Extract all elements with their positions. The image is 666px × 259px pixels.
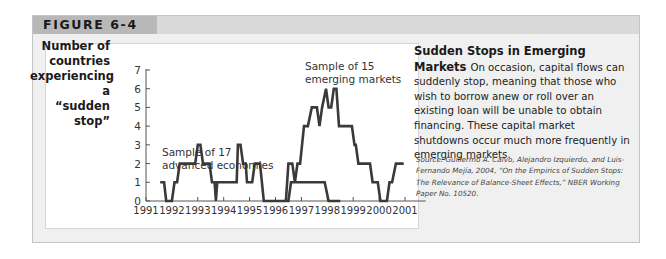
x-tick-label: 1998 [315,205,340,216]
source-note: Source: Guillermo A. Calvo, Alejandro Iz… [416,154,632,199]
annotation-advanced-economies: advanced economies [162,159,273,171]
x-tick-label: 2000 [366,205,391,216]
annotation-advanced-economies: Sample of 17 [162,146,232,158]
y-tick-label: 1 [134,176,141,188]
x-tick-label: 2001 [392,205,417,216]
x-tick-label: 1991 [133,205,158,216]
annotation-emerging-markets: Sample of 15 [305,60,375,72]
series-emerging-markets [286,89,404,201]
annotation-emerging-markets: emerging markets [305,73,401,85]
caption: Sudden Stops in Emerging Markets On occa… [414,44,630,163]
x-tick-label: 1999 [340,205,365,216]
x-tick-label: 1992 [159,205,184,216]
y-tick-label: 6 [134,83,141,95]
x-tick-label: 1995 [237,205,262,216]
x-tick-label: 1996 [263,205,288,216]
x-tick-label: 1994 [211,205,236,216]
y-tick-label: 3 [134,139,141,151]
x-tick-label: 1997 [289,205,314,216]
x-tick-label: 1993 [185,205,210,216]
y-tick-label: 7 [134,64,141,76]
y-tick-label: 2 [134,158,141,170]
caption-body: On occasion, capital flows can suddenly … [414,62,630,161]
y-tick-label: 4 [134,120,141,132]
y-tick-label: 5 [134,101,141,113]
